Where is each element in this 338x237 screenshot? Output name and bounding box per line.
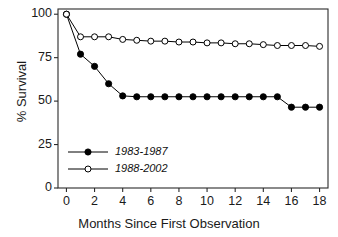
data-point-1988-2002: [176, 39, 182, 45]
data-point-1983-1987: [148, 94, 154, 100]
x-axis-tick-label: 14: [252, 194, 274, 208]
data-point-1988-2002: [246, 41, 252, 47]
x-axis-tick-label: 4: [112, 194, 134, 208]
x-axis-tick-label: 8: [168, 194, 190, 208]
data-point-1983-1987: [176, 94, 182, 100]
data-point-1983-1987: [218, 94, 224, 100]
data-point-1988-2002: [303, 43, 309, 49]
x-axis-tick-label: 6: [140, 194, 162, 208]
data-point-1983-1987: [246, 94, 252, 100]
y-axis-tick-label: 100: [18, 6, 52, 20]
data-point-1988-2002: [120, 36, 126, 42]
legend-marker-filled-circle: [85, 149, 91, 155]
survival-chart-figure: % Survival Months Since First Observatio…: [0, 0, 338, 237]
y-axis-tick-label: 50: [18, 93, 52, 107]
data-point-1983-1987: [120, 93, 126, 99]
data-point-1988-2002: [78, 34, 84, 40]
y-axis-tick-label: 0: [18, 180, 52, 194]
data-point-1983-1987: [260, 94, 266, 100]
data-point-1988-2002: [204, 40, 210, 46]
data-point-1983-1987: [91, 63, 97, 69]
data-point-1983-1987: [204, 94, 210, 100]
x-axis-title: Months Since First Observation: [0, 216, 338, 231]
data-point-1983-1987: [162, 94, 168, 100]
x-axis-tick-label: 2: [84, 194, 106, 208]
legend-label-1988-2002: 1988-2002: [115, 162, 168, 174]
x-axis-tick-label: 10: [196, 194, 218, 208]
data-point-1988-2002: [63, 11, 69, 17]
data-point-1988-2002: [148, 38, 154, 44]
data-point-1983-1987: [288, 104, 294, 110]
data-point-1983-1987: [232, 94, 238, 100]
data-point-1983-1987: [77, 51, 83, 57]
data-point-1988-2002: [190, 39, 196, 45]
data-point-1988-2002: [218, 40, 224, 46]
data-point-1988-2002: [134, 37, 140, 43]
data-point-1988-2002: [260, 42, 266, 48]
data-point-1988-2002: [288, 43, 294, 49]
data-point-1983-1987: [316, 104, 322, 110]
data-point-1983-1987: [190, 94, 196, 100]
x-axis-tick-label: 18: [309, 194, 331, 208]
data-point-1988-2002: [317, 43, 323, 49]
y-axis-tick-label: 75: [18, 50, 52, 64]
data-point-1983-1987: [134, 94, 140, 100]
x-axis-tick-label: 16: [280, 194, 302, 208]
data-point-1988-2002: [232, 41, 238, 47]
legend-label-1983-1987: 1983-1987: [115, 145, 168, 157]
x-axis-tick-label: 0: [55, 194, 77, 208]
y-axis-tick-label: 25: [18, 137, 52, 151]
data-point-1988-2002: [92, 34, 98, 40]
data-point-1988-2002: [162, 38, 168, 44]
legend-marker-open-circle: [85, 166, 91, 172]
data-point-1983-1987: [106, 81, 112, 87]
data-point-1983-1987: [274, 94, 280, 100]
data-point-1983-1987: [302, 104, 308, 110]
data-point-1988-2002: [106, 34, 112, 40]
x-axis-tick-label: 12: [224, 194, 246, 208]
data-point-1988-2002: [274, 43, 280, 49]
